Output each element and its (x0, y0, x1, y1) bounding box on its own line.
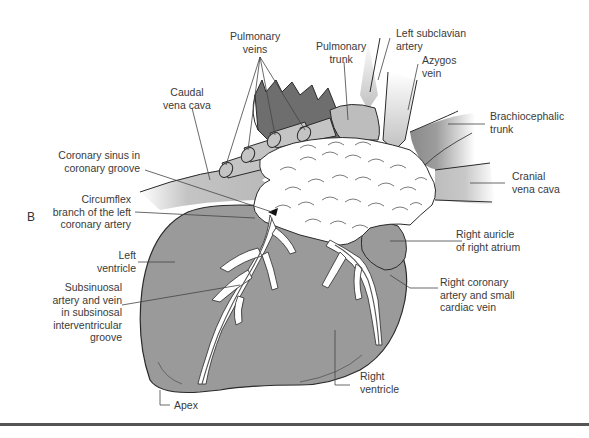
heart-diagram: B Pulmonary veins Pulmonary trunk Left s… (0, 0, 589, 438)
label-left-subclavian-artery: Left subclavian artery (396, 27, 466, 52)
label-pulmonary-trunk: Pulmonary trunk (316, 40, 366, 65)
label-subsinuosal-artery: Subsinuosal artery and vein in subsinosa… (30, 281, 122, 344)
label-coronary-sinus: Coronary sinus in coronary groove (58, 149, 140, 174)
label-right-auricle: Right auricle of right atrium (456, 228, 520, 253)
label-pulmonary-veins: Pulmonary veins (230, 30, 280, 55)
label-apex: Apex (174, 399, 198, 412)
label-brachiocephalic-trunk: Brachiocephalic trunk (490, 110, 564, 135)
label-right-ventricle: Right ventricle (360, 370, 399, 395)
label-circumflex-branch: Circumflex branch of the left coronary a… (40, 193, 131, 231)
label-azygos-vein: Azygos vein (422, 54, 456, 79)
panel-letter: B (27, 210, 35, 224)
label-left-ventricle: Left ventricle (80, 249, 136, 274)
label-cranial-vena-cava: Cranial vena cava (512, 170, 560, 195)
pulmonary-trunk (330, 104, 379, 140)
label-caudal-vena-cava: Caudal vena cava (163, 86, 211, 111)
label-right-coronary-artery: Right coronary artery and small cardiac … (440, 276, 515, 314)
bottom-rule (0, 423, 589, 426)
